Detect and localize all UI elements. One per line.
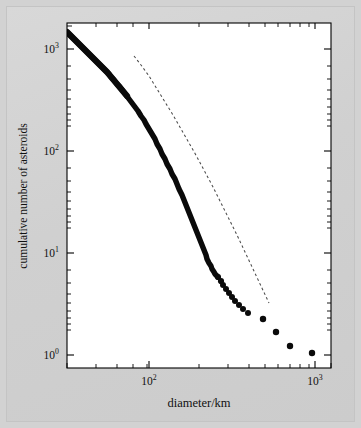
data-point bbox=[240, 306, 246, 312]
y-tick-mantissa-10: 10 bbox=[44, 247, 56, 259]
svg-text:101: 101 bbox=[44, 245, 60, 259]
y-tick-exponent-1000: 3 bbox=[55, 41, 59, 50]
asteroid-size-distribution-chart: 103 102 101 100 102 103 bbox=[7, 7, 356, 423]
svg-text:100: 100 bbox=[44, 347, 60, 361]
figure-container: 103 102 101 100 102 103 bbox=[0, 0, 361, 428]
x-axis-title: diameter/km bbox=[167, 396, 230, 410]
data-point bbox=[245, 310, 251, 316]
data-point bbox=[287, 343, 293, 349]
svg-text:102: 102 bbox=[141, 373, 157, 387]
svg-text:103: 103 bbox=[307, 373, 323, 387]
y-axis-title: cumulative number of asteroids bbox=[17, 123, 29, 269]
y-tick-exponent-100: 2 bbox=[55, 143, 59, 152]
x-tick-mantissa-1000: 10 bbox=[307, 375, 319, 387]
y-tick-exponent-10: 1 bbox=[55, 245, 59, 254]
x-axis-tick-labels: 102 103 bbox=[141, 373, 323, 387]
x-tick-mantissa-100: 10 bbox=[141, 375, 153, 387]
y-axis-tick-labels: 103 102 101 100 bbox=[44, 41, 60, 361]
y-tick-mantissa-1: 10 bbox=[44, 349, 56, 361]
data-point bbox=[260, 316, 266, 322]
x-tick-exponent-1000: 3 bbox=[319, 373, 323, 382]
y-tick-mantissa-100: 10 bbox=[44, 145, 56, 157]
y-tick-exponent-1: 0 bbox=[55, 347, 59, 356]
x-tick-exponent-100: 2 bbox=[153, 373, 157, 382]
svg-text:103: 103 bbox=[44, 41, 60, 55]
data-point bbox=[309, 350, 315, 356]
svg-text:102: 102 bbox=[44, 143, 60, 157]
y-tick-mantissa-1000: 10 bbox=[44, 43, 56, 55]
data-point bbox=[273, 329, 279, 335]
figure-panel: 103 102 101 100 102 103 bbox=[6, 6, 355, 422]
